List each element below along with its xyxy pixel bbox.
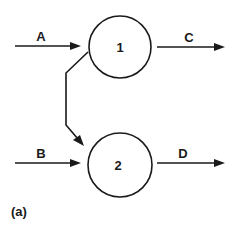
arrowhead-icon xyxy=(70,159,81,167)
node-1: 1 xyxy=(89,16,151,78)
edge-d: D xyxy=(157,146,225,167)
edge-label-b: B xyxy=(36,146,45,161)
flow-diagram: A 1 C B 2 D (a) xyxy=(0,0,235,234)
edge-c: C xyxy=(157,30,225,51)
edge-a: A xyxy=(15,29,81,50)
node-label-1: 1 xyxy=(116,40,123,55)
arrowhead-icon xyxy=(214,159,225,167)
arrowhead-icon xyxy=(214,43,225,51)
edge-label-c: C xyxy=(184,30,194,45)
node-2: 2 xyxy=(88,133,152,197)
node-label-2: 2 xyxy=(114,158,121,173)
arrowhead-icon xyxy=(70,42,81,50)
edge-b: B xyxy=(15,146,81,167)
panel-label: (a) xyxy=(11,204,27,219)
arrowhead-icon xyxy=(73,135,84,146)
edge-1-to-2 xyxy=(66,52,88,146)
edge-label-d: D xyxy=(178,146,187,161)
edge-label-a: A xyxy=(36,29,46,44)
